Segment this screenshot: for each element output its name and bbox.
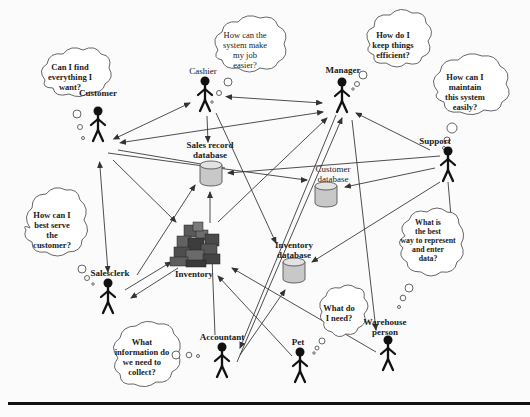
thought-text-support: How can I maintain this system easily? [445, 72, 485, 112]
thought-text-salesclerk: How can I best serve the customer? [33, 210, 71, 250]
thought-text-cashier: How can the system make my job easier? [223, 30, 267, 70]
thought-text-pet: What do I need? [323, 303, 354, 323]
thought-text-accountant: What information do we need to collect? [115, 337, 170, 377]
cylinder-icon-inventory-db [283, 258, 305, 283]
cylinder-icon-customer-db [315, 182, 337, 207]
store-label-inventory-db: Inventory database [275, 240, 313, 260]
stakeholder-diagram: Customer Cashier Manager Support Salescl… [0, 0, 530, 417]
actor-label-accountant: Accountant [200, 332, 245, 342]
divider-rule [8, 402, 530, 405]
store-label-sales-record-db: Sales record database [186, 140, 233, 160]
thought-text-customer: Can I find everything I want? [48, 62, 92, 92]
actor-label-pet: Pet [292, 337, 305, 347]
thought-text-manager: How do I keep things efficient? [372, 30, 413, 60]
inventory-label: Inventory [175, 269, 213, 279]
actor-label-cashier: Cashier [189, 66, 217, 76]
store-label-customer-db: Customer database [316, 164, 351, 184]
cylinder-icon-sales-record-db [200, 161, 222, 186]
boxes-icon-inventory [170, 222, 220, 267]
actor-label-support: Support [419, 136, 451, 146]
actor-label-manager: Manager [326, 65, 361, 75]
actor-label-salesclerk: Salesclerk [91, 268, 130, 278]
thought-text-warehouse-person: What is the best way to represent and en… [400, 218, 455, 263]
actor-label-warehouse-person: Warehouse person [360, 317, 410, 337]
